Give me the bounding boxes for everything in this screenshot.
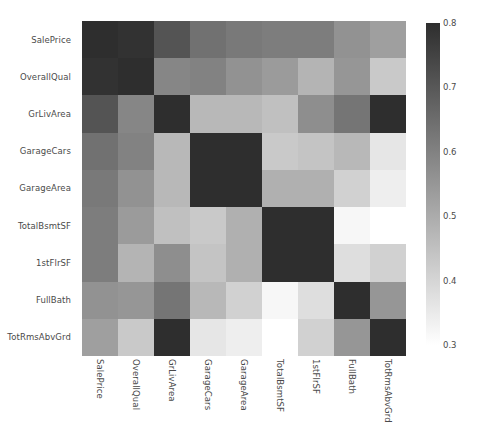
colorbar-tick-1: 0.7 xyxy=(443,82,457,92)
x-tick-slot-2: GrLivArea xyxy=(154,357,190,435)
y-tick-label-5: TotalBsmtSF xyxy=(0,207,76,244)
heatmap-cell xyxy=(262,170,298,207)
heatmap-cell xyxy=(262,21,298,58)
y-axis-tick-labels: SalePriceOverallQualGrLivAreaGarageCarsG… xyxy=(0,21,76,356)
heatmap-cell xyxy=(262,207,298,244)
x-tick-slot-7: FullBath xyxy=(334,357,370,435)
x-tick-slot-0: SalePrice xyxy=(82,357,118,435)
heatmap-grid xyxy=(82,21,406,356)
x-tick-slot-8: TotRmsAbvGrd xyxy=(370,357,406,435)
colorbar-tick-4: 0.4 xyxy=(443,276,457,286)
y-tick-label-8: TotRmsAbvGrd xyxy=(0,319,76,356)
heatmap-cell xyxy=(334,282,370,319)
heatmap-cell xyxy=(262,319,298,356)
heatmap-cell xyxy=(226,282,262,319)
heatmap-cell xyxy=(370,95,406,132)
heatmap-cell xyxy=(262,95,298,132)
y-tick-label-2: GrLivArea xyxy=(0,95,76,132)
heatmap-cell xyxy=(298,170,334,207)
y-tick-label-7: FullBath xyxy=(0,282,76,319)
x-axis-tick-labels: SalePriceOverallQualGrLivAreaGarageCarsG… xyxy=(82,357,406,435)
heatmap-cell xyxy=(298,21,334,58)
heatmap-cell xyxy=(190,282,226,319)
heatmap-cell xyxy=(334,95,370,132)
heatmap-cell xyxy=(190,21,226,58)
x-tick-slot-4: GarageArea xyxy=(226,357,262,435)
heatmap-cell xyxy=(154,282,190,319)
heatmap-cell xyxy=(370,133,406,170)
x-tick-label-3: GarageCars xyxy=(203,359,213,410)
heatmap-cell xyxy=(298,244,334,281)
heatmap-cell xyxy=(118,207,154,244)
heatmap-cell xyxy=(190,133,226,170)
heatmap-cell xyxy=(154,244,190,281)
heatmap-cell xyxy=(190,319,226,356)
x-tick-label-1: OverallQual xyxy=(131,359,141,410)
y-tick-label-3: GarageCars xyxy=(0,133,76,170)
heatmap-cell xyxy=(370,21,406,58)
heatmap-cell xyxy=(118,170,154,207)
heatmap-cell xyxy=(82,207,118,244)
y-tick-label-0: SalePrice xyxy=(0,21,76,58)
x-tick-slot-3: GarageCars xyxy=(190,357,226,435)
heatmap-cell xyxy=(190,207,226,244)
heatmap-cell xyxy=(370,170,406,207)
x-tick-label-5: TotalBsmtSF xyxy=(275,359,285,412)
heatmap-cell xyxy=(226,170,262,207)
heatmap-cell xyxy=(298,58,334,95)
x-tick-slot-6: 1stFlrSF xyxy=(298,357,334,435)
heatmap-cell xyxy=(334,21,370,58)
heatmap-cell xyxy=(118,244,154,281)
heatmap-cell xyxy=(118,282,154,319)
heatmap-cell xyxy=(118,95,154,132)
x-tick-label-8: TotRmsAbvGrd xyxy=(383,359,393,423)
heatmap-cell xyxy=(334,244,370,281)
heatmap-cell xyxy=(262,282,298,319)
y-tick-label-4: GarageArea xyxy=(0,170,76,207)
heatmap-cell xyxy=(118,21,154,58)
heatmap-cell xyxy=(190,95,226,132)
heatmap-cell xyxy=(370,244,406,281)
heatmap-cell xyxy=(154,207,190,244)
heatmap-cell xyxy=(298,207,334,244)
heatmap-cell xyxy=(334,207,370,244)
heatmap-cell xyxy=(370,207,406,244)
x-tick-label-0: SalePrice xyxy=(95,359,105,399)
heatmap-cell xyxy=(334,319,370,356)
heatmap-cell xyxy=(82,244,118,281)
heatmap-cell xyxy=(334,170,370,207)
heatmap-cell xyxy=(370,319,406,356)
heatmap-cell xyxy=(154,58,190,95)
heatmap-cell xyxy=(82,95,118,132)
heatmap-cell xyxy=(226,207,262,244)
heatmap-cell xyxy=(154,170,190,207)
heatmap-cell xyxy=(298,95,334,132)
heatmap-cell xyxy=(226,319,262,356)
heatmap-cell xyxy=(226,58,262,95)
heatmap-cell xyxy=(82,319,118,356)
heatmap-cell xyxy=(82,133,118,170)
heatmap-cell xyxy=(370,58,406,95)
heatmap-cell xyxy=(298,319,334,356)
heatmap-cell xyxy=(370,282,406,319)
heatmap-cell xyxy=(154,319,190,356)
heatmap-cell xyxy=(118,133,154,170)
heatmap-cell xyxy=(82,58,118,95)
x-tick-label-4: GarageArea xyxy=(239,359,249,411)
heatmap-cell xyxy=(298,133,334,170)
heatmap-cell xyxy=(262,58,298,95)
heatmap-cell xyxy=(298,282,334,319)
heatmap-cell xyxy=(334,133,370,170)
heatmap-cell xyxy=(190,58,226,95)
heatmap-cell xyxy=(118,58,154,95)
x-tick-label-7: FullBath xyxy=(347,359,357,394)
heatmap-cell xyxy=(226,133,262,170)
heatmap-cell xyxy=(190,244,226,281)
colorbar-gradient xyxy=(426,23,440,345)
heatmap-cell xyxy=(154,21,190,58)
colorbar xyxy=(426,23,440,345)
colorbar-tick-3: 0.5 xyxy=(443,211,457,221)
heatmap-cell xyxy=(226,95,262,132)
heatmap-cell xyxy=(334,58,370,95)
y-tick-label-6: 1stFlrSF xyxy=(0,244,76,281)
